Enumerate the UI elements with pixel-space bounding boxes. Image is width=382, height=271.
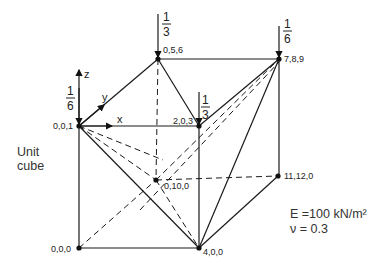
node-400 [196, 245, 201, 250]
svg-text:1: 1 [284, 17, 291, 31]
material-properties: E =100 kN/m² ν = 0.3 [290, 207, 367, 237]
svg-text:6: 6 [67, 99, 74, 113]
node-789 [276, 56, 281, 61]
node-label: 4,0,0 [203, 247, 223, 257]
svg-text:3: 3 [163, 25, 170, 39]
y-axis-arrow [79, 105, 104, 126]
load-value-056: 1 3 [162, 10, 171, 39]
node-11120 [275, 173, 280, 178]
unit-cube-caption: Unit cube [17, 145, 44, 173]
node-label: 7,8,9 [284, 54, 304, 64]
node-000 [76, 245, 81, 250]
x-axis-label: x [117, 113, 123, 125]
nodes [76, 56, 281, 250]
caption-line-1: Unit [17, 145, 44, 159]
hidden-edges [79, 59, 279, 248]
y-axis-label: y [102, 91, 108, 103]
youngs-modulus: E =100 kN/m² [290, 207, 367, 222]
node-label: 2,0,3 [173, 116, 193, 126]
load-value-789: 1 6 [283, 17, 292, 46]
z-axis-label: z [84, 68, 90, 80]
node-203 [196, 123, 201, 128]
svg-text:1: 1 [163, 10, 170, 24]
svg-text:1: 1 [202, 93, 209, 107]
poisson-ratio: ν = 0.3 [290, 222, 367, 237]
node-label: 0,0,0 [51, 244, 71, 254]
node-label: 0,10,0 [164, 181, 189, 191]
load-arrows [79, 14, 279, 124]
load-value-001: 1 6 [66, 84, 75, 113]
node-056 [155, 56, 160, 61]
caption-line-2: cube [17, 159, 44, 173]
svg-text:3: 3 [202, 108, 209, 122]
node-label: 11,12,0 [284, 171, 313, 181]
svg-text:1: 1 [67, 84, 74, 98]
node-0100 [153, 177, 158, 182]
svg-text:6: 6 [284, 32, 291, 46]
node-001 [76, 123, 81, 128]
load-value-203: 1 3 [201, 93, 210, 122]
node-label: 0,0,1 [53, 121, 73, 131]
node-label: 0,5,6 [163, 45, 183, 55]
solid-edges [79, 59, 279, 248]
